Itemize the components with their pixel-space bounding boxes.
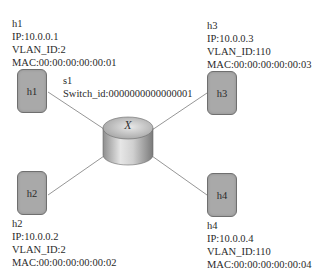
host-vlan: VLAN_ID:2 <box>12 43 116 56</box>
host-h2-info: h2 IP:10.0.0.2 VLAN_ID:2 MAC:00:00:00:00… <box>12 217 116 269</box>
host-h3-info: h3 IP:10.0.0.3 VLAN_ID:110 MAC:00:00:00:… <box>207 19 311 71</box>
switch-id: Switch_id:0000000000000001 <box>63 87 193 100</box>
host-name: h3 <box>207 19 311 32</box>
host-h4-info: h4 IP:10.0.0.4 VLAN_ID:110 MAC:00:00:00:… <box>207 219 311 271</box>
host-box-label: h1 <box>27 86 38 97</box>
host-mac: MAC:00:00:00:00:00:03 <box>207 58 311 71</box>
switch-info: s1 Switch_id:0000000000000001 <box>63 74 193 100</box>
host-ip: IP:10.0.0.2 <box>12 230 116 243</box>
link-h4-s1 <box>152 156 207 195</box>
host-mac: MAC:00:00:00:00:00:02 <box>12 256 116 269</box>
host-mac: MAC:00:00:00:00:00:04 <box>207 258 311 271</box>
host-h1-node[interactable]: h1 <box>17 69 47 113</box>
host-h3-node[interactable]: h3 <box>207 71 237 115</box>
host-ip: IP:10.0.0.1 <box>12 30 116 43</box>
host-h1-info: h1 IP:10.0.0.1 VLAN_ID:2 MAC:00:00:00:00… <box>12 17 116 69</box>
network-topology-diagram: X s1 Switch_id:0000000000000001 h1 IP:10… <box>0 0 325 276</box>
host-name: h4 <box>207 219 311 232</box>
host-name: h1 <box>12 17 116 30</box>
link-h2-s1 <box>48 156 104 195</box>
host-vlan: VLAN_ID:2 <box>12 243 116 256</box>
host-box-label: h3 <box>217 88 228 99</box>
switch-name: s1 <box>63 74 193 87</box>
host-h4-node[interactable]: h4 <box>207 173 237 217</box>
host-mac: MAC:00:00:00:00:00:01 <box>12 56 116 69</box>
switch-symbol: X <box>122 118 134 133</box>
host-ip: IP:10.0.0.3 <box>207 32 311 45</box>
host-h2-node[interactable]: h2 <box>17 171 47 215</box>
host-name: h2 <box>12 217 116 230</box>
host-vlan: VLAN_ID:110 <box>207 245 311 258</box>
host-ip: IP:10.0.0.4 <box>207 232 311 245</box>
host-box-label: h2 <box>27 188 38 199</box>
host-box-label: h4 <box>217 190 228 201</box>
host-vlan: VLAN_ID:110 <box>207 45 311 58</box>
